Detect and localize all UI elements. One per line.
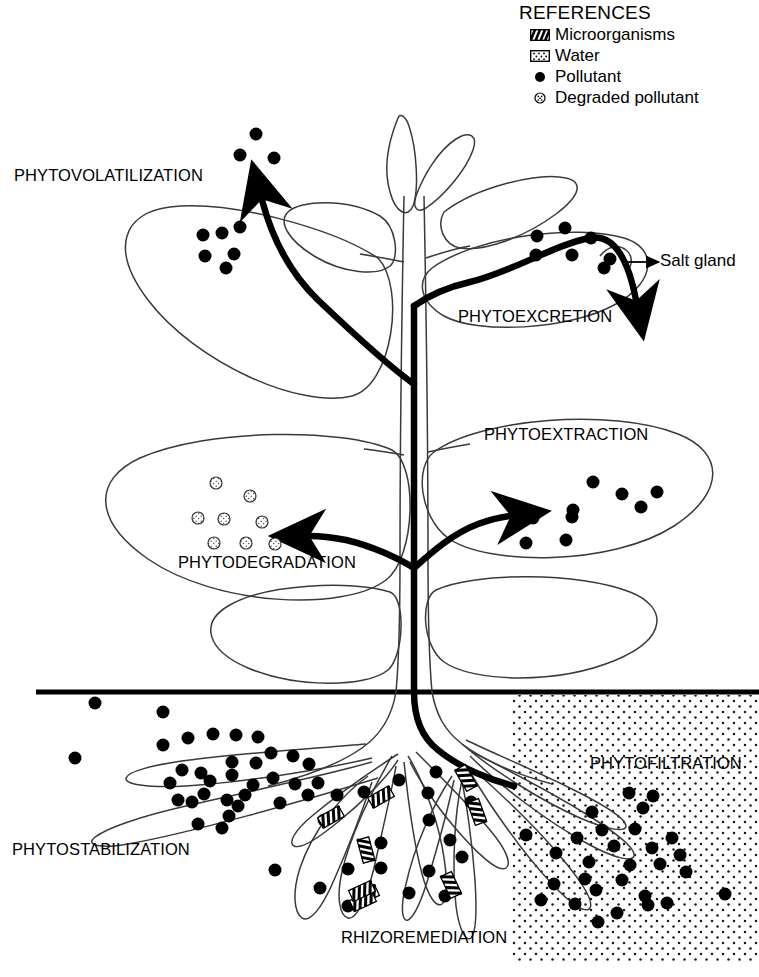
pollutant-icon — [529, 70, 551, 84]
label-phytoextraction: PHYTOEXTRACTION — [484, 425, 648, 443]
water-icon — [529, 50, 551, 62]
label-phytofiltration: PHYTOFILTRATION — [590, 754, 742, 772]
legend-label-degraded-pollutant: Degraded pollutant — [555, 88, 699, 107]
microorganism-icon — [529, 29, 551, 41]
label-phytoexcretion: PHYTOEXCRETION — [458, 307, 612, 325]
degraded-pollutant-dots — [192, 477, 281, 550]
legend-label-pollutant: Pollutant — [555, 67, 621, 86]
label-phytostabilization: PHYTOSTABILIZATION — [12, 840, 190, 858]
legend-title: REFERENCES — [519, 2, 759, 24]
label-salt-gland: Salt gland — [660, 251, 736, 271]
label-phytovolatilization: PHYTOVOLATILIZATION — [14, 166, 203, 184]
legend-label-microorganisms: Microorganisms — [555, 25, 675, 44]
label-rhizoremediation: RHIZOREMEDIATION — [341, 928, 507, 946]
label-phytodegradation: PHYTODEGRADATION — [178, 553, 356, 571]
legend-item-pollutant: Pollutant — [529, 66, 759, 87]
phytoremediation-diagram: REFERENCES Microorganisms — [0, 0, 759, 977]
legend-item-water: Water — [529, 45, 759, 66]
legend-item-degraded-pollutant: Degraded pollutant — [529, 87, 759, 108]
legend-label-water: Water — [555, 46, 600, 65]
degraded-pollutant-icon — [529, 91, 551, 105]
diagram-canvas — [0, 0, 759, 977]
legend-item-microorganisms: Microorganisms — [529, 24, 759, 45]
legend: REFERENCES Microorganisms — [505, 2, 759, 108]
